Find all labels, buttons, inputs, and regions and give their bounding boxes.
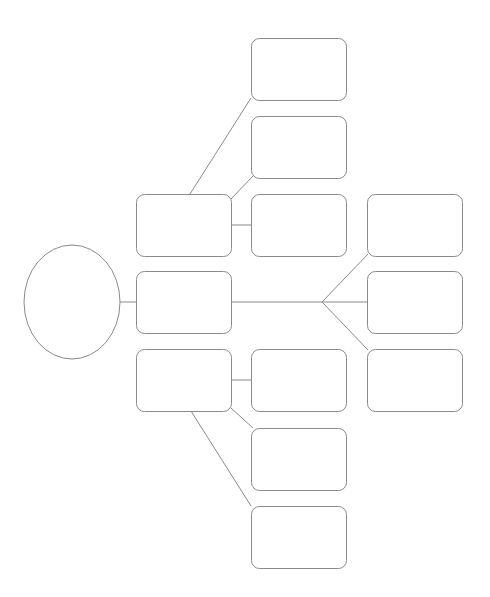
node-bottom-leaf-1 xyxy=(252,350,347,412)
node-branch-bottom xyxy=(137,350,232,412)
connector-branch-middle-to-middle-leaf-3 xyxy=(322,302,368,350)
mind-map-diagram xyxy=(0,0,490,597)
node-layer xyxy=(24,39,463,569)
connector-branch-middle-to-middle-leaf-1 xyxy=(231,254,368,302)
node-top-leaf-3 xyxy=(252,195,347,257)
node-branch-top xyxy=(137,195,232,257)
node-top-leaf-1 xyxy=(252,39,347,101)
node-branch-middle xyxy=(137,272,232,334)
node-middle-leaf-3 xyxy=(368,350,463,412)
connector-branch-bottom-to-bottom-leaf-3 xyxy=(191,411,251,506)
connector-branch-top-to-top-leaf-1 xyxy=(190,98,251,194)
node-top-leaf-2 xyxy=(252,117,347,179)
node-root xyxy=(24,245,120,359)
connector-branch-bottom-to-bottom-leaf-2 xyxy=(231,408,253,428)
node-bottom-leaf-2 xyxy=(252,429,347,491)
node-middle-leaf-1 xyxy=(368,195,463,257)
node-middle-leaf-2 xyxy=(368,272,463,334)
node-bottom-leaf-3 xyxy=(252,507,347,569)
connector-branch-top-to-top-leaf-2 xyxy=(231,176,253,199)
